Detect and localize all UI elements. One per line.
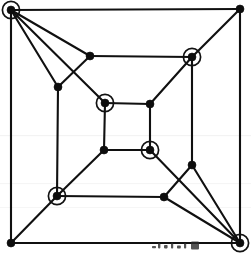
graph-vertex-mid-tl	[86, 52, 94, 60]
diagram-background	[0, 0, 251, 259]
graph-vertex-mid-tr	[188, 53, 196, 61]
graph-edge-outer-square-top	[11, 9, 240, 10]
graph-vertex-inner-tl	[101, 99, 109, 107]
graph-vertex-inner-tr	[146, 100, 154, 108]
graph-vertex-right-lower	[188, 161, 196, 169]
graph-edge-inner-square-top	[105, 103, 150, 104]
graph-edge-inner-square-left	[104, 103, 105, 150]
graph-vertex-outer-bl	[7, 239, 15, 247]
graph-vertex-left-upper	[54, 83, 62, 91]
figure-root	[0, 0, 251, 259]
graph-vertex-mid-bl	[53, 192, 61, 200]
graph-vertex-inner-bl	[100, 146, 108, 154]
graph-vertex-mid-br	[160, 193, 168, 201]
graph-edge-middle-square-bottom	[57, 196, 164, 197]
graph-vertex-outer-tl	[7, 6, 15, 14]
graph-vertex-inner-br	[146, 146, 154, 154]
graph-vertex-outer-br	[236, 239, 244, 247]
graph-edge-middle-square-left-lower	[57, 87, 58, 196]
graph-edge-middle-square-top	[90, 56, 192, 57]
graph-diagram	[0, 0, 251, 259]
graph-vertex-outer-tr	[236, 5, 244, 13]
